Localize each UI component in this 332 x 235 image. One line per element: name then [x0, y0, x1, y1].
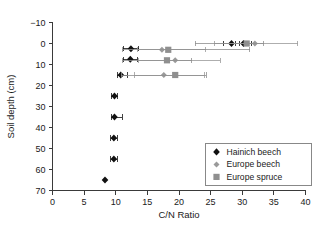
cn-ratio-depth-scatter-chart: 0510152025303540−10010203040506070 C/N R…: [0, 0, 332, 235]
y-tick-label: 50: [35, 144, 45, 154]
x-tick-label: 5: [82, 197, 87, 207]
x-tick-label: 20: [174, 197, 184, 207]
x-tick-label: 35: [269, 197, 279, 207]
legend-marker-icon: [213, 174, 219, 180]
data-point-marker: [165, 47, 171, 53]
y-tick-label: 10: [35, 60, 45, 70]
y-tick-label: 0: [40, 39, 45, 49]
y-tick-label: 20: [35, 81, 45, 91]
legend-entry-label: Europe spruce: [227, 172, 283, 182]
x-tick-label: 30: [237, 197, 247, 207]
legend-entry-label: Hainich beech: [227, 147, 282, 157]
x-tick-label: 40: [300, 197, 310, 207]
y-tick-label: 70: [35, 186, 45, 196]
y-tick-label: −10: [30, 18, 45, 28]
chart-legend[interactable]: Hainich beechEurope beechEurope spruce: [206, 144, 312, 186]
y-axis-title: Soil depth (cm): [5, 75, 16, 139]
x-tick-label: 0: [50, 197, 55, 207]
x-axis-title: C/N Ratio: [158, 209, 199, 220]
data-point-marker: [172, 72, 178, 78]
y-tick-label: 40: [35, 123, 45, 133]
x-tick-label: 10: [111, 197, 121, 207]
data-point-marker: [164, 57, 170, 63]
chart-figure: 0510152025303540−10010203040506070 C/N R…: [0, 0, 332, 235]
legend-entry-label: Europe beech: [227, 159, 281, 169]
x-tick-label: 15: [142, 197, 152, 207]
x-tick-label: 25: [206, 197, 216, 207]
y-tick-label: 30: [35, 102, 45, 112]
y-tick-label: 60: [35, 165, 45, 175]
data-point-marker: [244, 40, 250, 46]
